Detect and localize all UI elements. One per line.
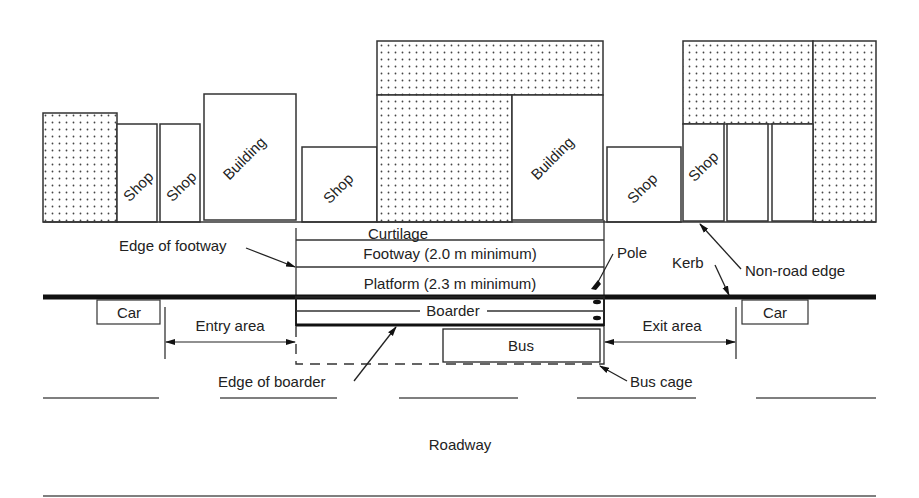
car-right-label: Car: [763, 304, 787, 321]
bus-cage-arrow: [600, 366, 627, 381]
bollard-1: [593, 300, 601, 304]
kerb-callout: Kerb: [672, 254, 704, 271]
building-dotted-top: [377, 41, 603, 95]
roadway-label: Roadway: [429, 436, 492, 453]
non-road-edge-arrow: [700, 224, 741, 269]
edge-of-boarder-arrow: [354, 327, 396, 381]
car-left-label: Car: [117, 304, 141, 321]
buildings-row: Shop Shop Building Shop Building Shop Sh…: [43, 41, 876, 222]
bus-label: Bus: [508, 337, 534, 354]
bollard-2: [593, 316, 601, 320]
pole-leader: [598, 254, 613, 282]
footway-label: Footway (2.0 m minimum): [363, 245, 536, 262]
shop-6: [772, 124, 813, 221]
boarder-label: Boarder: [426, 302, 479, 319]
entry-area-label: Entry area: [195, 317, 265, 334]
curtilage-label: Curtilage: [368, 225, 428, 242]
non-road-edge-callout: Non-road edge: [745, 262, 845, 279]
platform-label: Platform (2.3 m minimum): [364, 275, 537, 292]
edge-of-boarder-callout: Edge of boarder: [218, 373, 326, 390]
boarder: Boarder: [296, 297, 604, 325]
bus-stop-diagram: Shop Shop Building Shop Building Shop Sh…: [0, 0, 919, 498]
edge-of-footway-callout: Edge of footway: [119, 237, 227, 254]
building-dotted-1: [43, 113, 117, 222]
bus-cage-callout: Bus cage: [630, 373, 693, 390]
pole-callout: Pole: [617, 244, 647, 261]
building-dotted-2: [377, 95, 512, 222]
building-dotted-4: [813, 41, 876, 222]
exit-area-label: Exit area: [642, 317, 702, 334]
kerb-arrow: [715, 265, 729, 295]
shop-2: [160, 124, 200, 222]
edge-of-footway-arrow: [246, 248, 295, 267]
shop-1: [117, 124, 157, 222]
building-dotted-3: [683, 41, 813, 124]
building-unlabeled: [727, 124, 768, 221]
pole-icon: [591, 280, 601, 290]
